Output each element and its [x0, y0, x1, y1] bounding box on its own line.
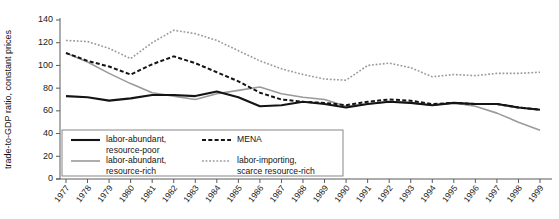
legend-label-0: labor-abundant,: [106, 134, 166, 144]
x-axis-tick-label: 1990: [332, 183, 352, 204]
y-axis-tick-label: 20: [43, 151, 53, 161]
x-axis-tick-label: 1995: [440, 183, 460, 204]
y-axis-tick-label: 0: [48, 173, 53, 183]
x-axis-tick-label: 1978: [74, 183, 94, 204]
x-axis-tick-label: 1979: [95, 183, 115, 204]
line-chart: 020406080100120140trade-to-GDP ratio, co…: [0, 0, 559, 219]
x-axis-tick-label: 1977: [52, 183, 72, 204]
legend-label-2: MENA: [237, 134, 262, 144]
x-axis-tick-label: 1982: [160, 183, 180, 204]
series-line-0: [66, 92, 540, 110]
x-axis-tick-label: 1994: [418, 183, 438, 204]
x-axis-tick-label: 1991: [354, 183, 374, 204]
x-axis-tick-label: 1997: [483, 183, 503, 204]
legend-label-1: labor-abundant,: [106, 155, 166, 165]
x-axis-tick-label: 1986: [246, 183, 266, 204]
y-axis-tick-label: 80: [43, 83, 53, 93]
x-axis-tick-label: 1984: [203, 183, 223, 204]
y-axis-tick-label: 140: [38, 14, 53, 24]
x-axis-tick-label: 1987: [268, 183, 288, 204]
x-axis-tick-label: 1989: [311, 183, 331, 204]
y-axis-tick-label: 40: [43, 128, 53, 138]
x-axis-tick-label: 1988: [289, 183, 309, 204]
x-axis-tick-label: 1998: [505, 183, 525, 204]
chart-container: 020406080100120140trade-to-GDP ratio, co…: [0, 0, 559, 219]
x-axis-tick-label: 1983: [181, 183, 201, 204]
legend-label-1-line2: resource-rich: [106, 166, 156, 176]
y-axis-tick-label: 120: [38, 37, 53, 47]
x-axis-tick-label: 1993: [397, 183, 417, 204]
x-axis-tick-label: 1981: [138, 183, 158, 204]
legend-label-3-line2: scarce resource-rich: [237, 166, 315, 176]
x-axis-tick-label: 1985: [224, 183, 244, 204]
x-axis-tick-label: 1992: [375, 183, 395, 204]
legend-label-3: labor-importing,: [237, 155, 297, 165]
x-axis-tick-label: 1980: [117, 183, 137, 204]
y-axis-title: trade-to-GDP ratio, constant prices: [3, 30, 13, 169]
y-axis-tick-label: 60: [43, 105, 53, 115]
x-axis-tick-label: 1996: [461, 183, 481, 204]
series-line-1: [66, 53, 540, 130]
x-axis-tick-label: 1999: [526, 183, 546, 204]
y-axis-tick-label: 100: [38, 60, 53, 70]
series-line-3: [66, 30, 540, 80]
legend-label-0-line2: resource-poor: [106, 145, 160, 155]
